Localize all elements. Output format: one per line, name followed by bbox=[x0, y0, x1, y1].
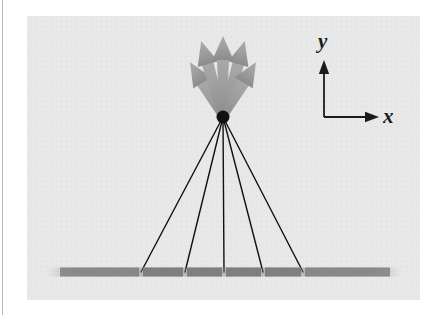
x-axis-arrowhead bbox=[365, 112, 379, 122]
coordinate-axes bbox=[319, 60, 379, 122]
grating-segment bbox=[60, 268, 139, 277]
grating-segment bbox=[265, 268, 301, 277]
grating-segment bbox=[187, 268, 222, 277]
incident-ray-4 bbox=[223, 117, 263, 272]
grating-segment bbox=[226, 268, 261, 277]
incident-ray-1 bbox=[141, 117, 223, 272]
figure-root: y x bbox=[0, 0, 446, 315]
incident-ray-3 bbox=[223, 117, 224, 272]
y-axis-arrowhead bbox=[319, 60, 329, 74]
diffraction-grating bbox=[46, 268, 402, 277]
incident-rays bbox=[141, 117, 303, 272]
grating-segment bbox=[143, 268, 183, 277]
incident-ray-2 bbox=[185, 117, 223, 272]
diagram-canvas bbox=[0, 0, 446, 315]
grating-segment bbox=[305, 268, 390, 277]
y-axis-label: y bbox=[318, 31, 327, 52]
point-source-dot bbox=[217, 111, 230, 124]
diffracted-arrows bbox=[181, 36, 265, 122]
x-axis-label: x bbox=[383, 106, 394, 127]
incident-ray-5 bbox=[223, 117, 303, 272]
